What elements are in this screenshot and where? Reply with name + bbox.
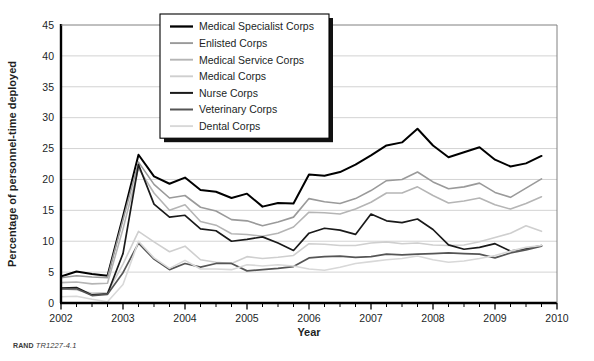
x-tick-label: 2007 [359, 312, 383, 324]
credit-prefix: RAND [13, 342, 34, 349]
data-series-group [61, 129, 542, 302]
legend-label-medical-specialist-corps: Medical Specialist Corps [199, 20, 314, 32]
y-tick-label: 35 [42, 81, 54, 93]
y-tick-label: 30 [42, 111, 54, 123]
y-tick-label: 0 [48, 297, 54, 309]
figure-container: 051015202530354045 200220032004200520062… [0, 0, 594, 361]
x-tick-label: 2003 [111, 312, 135, 324]
y-tick-label: 40 [42, 50, 54, 62]
legend-label-medical-service-corps: Medical Service Corps [199, 54, 304, 66]
y-tick-label: 15 [42, 204, 54, 216]
x-axis-tick-labels: 200220032004200520062007200820092010 [49, 312, 569, 324]
x-axis-title: Year [297, 326, 321, 338]
y-tick-label: 5 [48, 266, 54, 278]
y-axis-tick-labels: 051015202530354045 [42, 19, 54, 309]
x-tick-label: 2004 [173, 312, 197, 324]
legend-label-medical-corps: Medical Corps [199, 70, 266, 82]
series-line-veterinary-corps [61, 243, 542, 296]
x-tick-label: 2005 [235, 312, 259, 324]
chart-legend: Medical Specialist CorpsEnlisted CorpsMe… [160, 14, 333, 142]
y-tick-label: 25 [42, 142, 54, 154]
legend-label-dental-corps: Dental Corps [199, 120, 260, 132]
credit-id: TR1227-4.1 [36, 341, 77, 350]
legend-label-veterinary-corps: Veterinary Corps [199, 103, 277, 115]
x-tick-label: 2008 [421, 312, 445, 324]
x-tick-label: 2002 [49, 312, 73, 324]
x-tick-label: 2010 [545, 312, 569, 324]
y-tick-label: 10 [42, 235, 54, 247]
x-tick-label: 2009 [483, 312, 507, 324]
figure-credit: RAND TR1227-4.1 [13, 341, 76, 350]
x-tick-label: 2006 [297, 312, 321, 324]
y-tick-label: 20 [42, 173, 54, 185]
chart-svg: 051015202530354045 200220032004200520062… [0, 0, 594, 361]
legend-label-nurse-corps: Nurse Corps [199, 87, 258, 99]
y-axis-title: Percentage of personnel-time deployed [6, 61, 18, 267]
legend-label-enlisted-corps: Enlisted Corps [199, 37, 267, 49]
y-tick-label: 45 [42, 19, 54, 31]
